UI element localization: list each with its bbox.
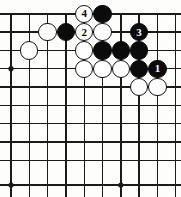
- move-number-label: 3: [136, 27, 142, 38]
- stone-black: [93, 41, 111, 59]
- stone-black: [130, 41, 148, 59]
- stone-white: [112, 60, 130, 78]
- move-number-label: 4: [81, 8, 87, 19]
- star-point-hoshi-bottom-left: [8, 182, 13, 187]
- move-number-label: 2: [81, 27, 87, 38]
- move-number-label: 1: [155, 63, 161, 74]
- stone-white: [93, 60, 111, 78]
- stone-white: [148, 78, 166, 96]
- stone-black: [93, 5, 111, 23]
- stone-white: [20, 41, 38, 59]
- stone-white: [75, 41, 93, 59]
- star-point-hoshi-bottom-center: [118, 182, 123, 187]
- stone-move-1-black: 1: [148, 60, 166, 78]
- go-board-diagram: 4231: [0, 0, 181, 197]
- star-point-hoshi-left: [8, 66, 13, 71]
- stone-white: [38, 23, 56, 41]
- stone-black: [130, 60, 148, 78]
- stone-white: [93, 23, 111, 41]
- stone-black: [112, 41, 130, 59]
